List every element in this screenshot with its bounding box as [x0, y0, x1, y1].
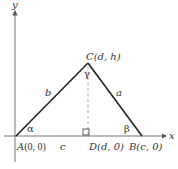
vertex-c-label: C(d, h) [86, 51, 121, 62]
triangle-diagram: y x C(d, h) γ b a c α β A(0, 0) D(d, 0) … [0, 0, 178, 169]
side-c-label: c [60, 141, 66, 152]
y-axis-label: y [11, 0, 18, 10]
x-axis-label: x [169, 130, 175, 141]
angle-gamma-label: γ [84, 68, 90, 79]
angle-alpha-label: α [27, 123, 34, 134]
angle-beta-label: β [124, 123, 130, 134]
side-a [88, 63, 142, 136]
side-a-label: a [116, 87, 122, 98]
vertex-d-label: D(d, 0) [88, 141, 124, 152]
diagram-canvas: y x C(d, h) γ b a c α β A(0, 0) D(d, 0) … [0, 0, 178, 169]
side-b-label: b [45, 87, 51, 98]
vertex-a-label: A(0, 0) [16, 141, 46, 153]
vertex-b-label: B(c, 0) [128, 141, 163, 152]
